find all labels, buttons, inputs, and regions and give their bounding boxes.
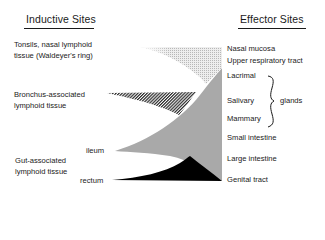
nasal-mucosa-label: Nasal mucosa — [227, 44, 275, 54]
tonsils-label-line1: Tonsils, nasal lymphoid — [14, 40, 92, 50]
glands-label: glands — [280, 96, 302, 106]
rectum-label: rectum — [80, 176, 103, 186]
lacrimal-label: Lacrimal — [227, 71, 256, 81]
genital-tract-label: Genital tract — [227, 175, 268, 185]
bronchus-label-line1: Bronchus-associated — [14, 90, 85, 100]
tonsils-label-line2: tissue (Waldeyer's ring) — [14, 51, 93, 61]
ileum-flow-shape — [115, 68, 222, 181]
upper-respiratory-label: Upper respiratory tract — [227, 56, 303, 66]
gut-label-line2: lymphoid tissue — [15, 167, 67, 177]
glands-brace — [268, 76, 274, 127]
gut-label-line1: Gut-associated — [15, 156, 66, 166]
mammary-label: Mammary — [227, 114, 261, 124]
tonsils-fade — [140, 47, 222, 84]
ileum-label: ileum — [86, 146, 104, 156]
salivary-label: Salivary — [227, 96, 254, 106]
bronchus-label-line2: lymphoid tissue — [14, 101, 66, 111]
small-intestine-label: Small intestine — [227, 133, 276, 143]
large-intestine-label: Large intestine — [227, 154, 277, 164]
bronchus-flow-shape — [107, 92, 196, 115]
